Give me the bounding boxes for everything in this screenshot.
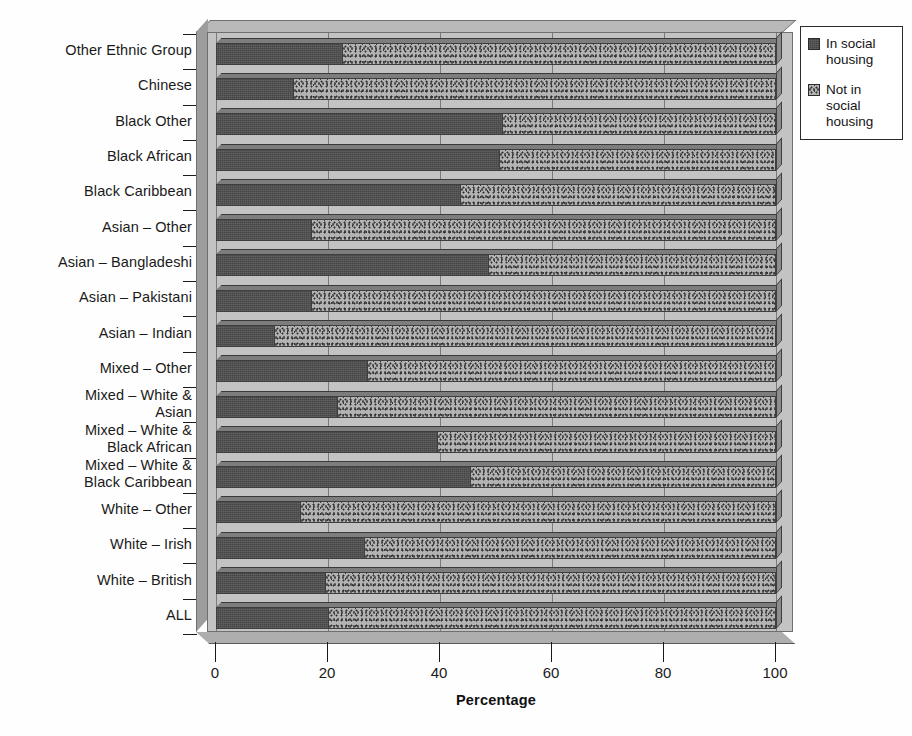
y-axis-label-line: Asian – Bangladeshi bbox=[0, 254, 192, 271]
bar-segment-in-social-housing bbox=[216, 325, 274, 347]
bar-segment-not-in-social-housing bbox=[470, 466, 776, 488]
y-axis-tick bbox=[183, 210, 197, 211]
y-axis-tick bbox=[183, 634, 197, 635]
legend-label: In socialhousing bbox=[826, 36, 876, 68]
legend-swatch-icon bbox=[808, 38, 820, 50]
bar-end-cap bbox=[776, 278, 782, 312]
y-axis-label-line: Asian – Other bbox=[0, 219, 192, 236]
y-axis-label-11: Mixed – White &Black African bbox=[0, 422, 192, 456]
bar-segment-not-in-social-housing bbox=[499, 149, 776, 171]
bar-segment-not-in-social-housing bbox=[274, 325, 776, 347]
y-axis-label-2: Black Other bbox=[0, 113, 192, 130]
y-axis-tick bbox=[183, 105, 197, 106]
bar-segment-not-in-social-housing bbox=[325, 572, 776, 594]
bar-end-cap bbox=[776, 102, 782, 136]
y-axis-label-13: White – Other bbox=[0, 501, 192, 518]
bar-end-cap bbox=[776, 31, 782, 65]
y-axis-tick bbox=[183, 458, 197, 459]
y-axis-label-line: ALL bbox=[0, 607, 192, 624]
x-axis-tick-label-40: 40 bbox=[409, 664, 469, 681]
bar-segment-not-in-social-housing bbox=[367, 360, 776, 382]
bar-segment-in-social-housing bbox=[216, 466, 470, 488]
x-axis-tick-label-100: 100 bbox=[745, 664, 805, 681]
y-axis-tick bbox=[183, 352, 197, 353]
legend-label: Not insocialhousing bbox=[826, 82, 873, 130]
bar-segment-in-social-housing bbox=[216, 607, 328, 629]
y-axis-label-line: Other Ethnic Group bbox=[0, 42, 192, 59]
y-axis-label-line: White – Irish bbox=[0, 536, 192, 553]
bar-end-cap bbox=[776, 243, 782, 277]
y-axis-tick bbox=[183, 316, 197, 317]
y-axis-label-10: Mixed – White &Asian bbox=[0, 387, 192, 421]
y-axis-label-line: Mixed – Other bbox=[0, 360, 192, 377]
y-axis-tick bbox=[183, 175, 197, 176]
bar-segment-not-in-social-housing bbox=[311, 290, 776, 312]
bar-segment-not-in-social-housing bbox=[328, 607, 776, 629]
y-axis-tick bbox=[183, 387, 197, 388]
bar-segment-in-social-housing bbox=[216, 360, 367, 382]
y-axis-label-16: ALL bbox=[0, 607, 192, 624]
y-axis-label-0: Other Ethnic Group bbox=[0, 42, 192, 59]
y-axis-label-line: Mixed – White & bbox=[0, 422, 192, 439]
legend-item-0: In socialhousing bbox=[808, 36, 896, 68]
bar-end-cap bbox=[776, 384, 782, 418]
y-axis-tick bbox=[183, 563, 197, 564]
legend: In socialhousingNot insocialhousing bbox=[800, 26, 903, 140]
bar-segment-not-in-social-housing bbox=[364, 537, 776, 559]
y-axis-tick bbox=[183, 246, 197, 247]
y-axis-label-15: White – British bbox=[0, 572, 192, 589]
y-axis-label-line: Black African bbox=[0, 148, 192, 165]
y-axis-label-3: Black African bbox=[0, 148, 192, 165]
y-axis-label-line: Asian – Indian bbox=[0, 325, 192, 342]
x-axis-tick-label-20: 20 bbox=[297, 664, 357, 681]
plot-wall bbox=[207, 32, 793, 632]
bar-segment-in-social-housing bbox=[216, 431, 437, 453]
y-axis-label-8: Asian – Indian bbox=[0, 325, 192, 342]
legend-label-line: housing bbox=[826, 114, 873, 130]
bar-segment-not-in-social-housing bbox=[437, 431, 776, 453]
bar-segment-not-in-social-housing bbox=[460, 184, 776, 206]
y-axis-label-line: Black Caribbean bbox=[0, 183, 192, 200]
y-axis-label-line: Black African bbox=[0, 439, 192, 456]
bar-segment-in-social-housing bbox=[216, 149, 499, 171]
bar-end-cap bbox=[776, 137, 782, 171]
legend-label-line: housing bbox=[826, 52, 876, 68]
y-axis-tick bbox=[183, 422, 197, 423]
bar-segment-not-in-social-housing bbox=[488, 254, 776, 276]
plot-area bbox=[196, 20, 796, 642]
bar-segment-not-in-social-housing bbox=[502, 113, 776, 135]
legend-item-1: Not insocialhousing bbox=[808, 82, 896, 130]
x-axis-title: Percentage bbox=[196, 692, 796, 708]
bar-end-cap bbox=[776, 490, 782, 524]
x-axis-tick-100 bbox=[775, 642, 776, 662]
x-axis-tick-label-80: 80 bbox=[633, 664, 693, 681]
bar-end-cap bbox=[776, 455, 782, 489]
legend-label-line: social bbox=[826, 98, 873, 114]
y-axis-label-12: Mixed – White &Black Caribbean bbox=[0, 457, 192, 491]
bar-segment-in-social-housing bbox=[216, 290, 311, 312]
bar-segment-in-social-housing bbox=[216, 43, 342, 65]
x-axis-tick-label-0: 0 bbox=[185, 664, 245, 681]
legend-label-line: In social bbox=[826, 36, 876, 52]
y-axis-tick bbox=[183, 599, 197, 600]
chart-root: Other Ethnic GroupChineseBlack OtherBlac… bbox=[0, 0, 912, 736]
y-axis-label-6: Asian – Bangladeshi bbox=[0, 254, 192, 271]
y-axis-label-line: White – British bbox=[0, 572, 192, 589]
y-axis-label-9: Mixed – Other bbox=[0, 360, 192, 377]
bar-segment-in-social-housing bbox=[216, 572, 325, 594]
bar-end-cap bbox=[776, 349, 782, 383]
y-axis-label-line: Black Caribbean bbox=[0, 474, 192, 491]
y-axis-tick bbox=[183, 69, 197, 70]
y-axis-tick bbox=[183, 34, 197, 35]
legend-swatch-icon bbox=[808, 84, 820, 96]
y-axis-label-line: Chinese bbox=[0, 77, 192, 94]
bar-end-cap bbox=[776, 207, 782, 241]
bar-end-cap bbox=[776, 172, 782, 206]
y-axis-label-line: Mixed – White & bbox=[0, 457, 192, 474]
x-axis-tick-label-60: 60 bbox=[521, 664, 581, 681]
bar-segment-in-social-housing bbox=[216, 254, 488, 276]
bar-end-cap bbox=[776, 525, 782, 559]
bar-segment-not-in-social-housing bbox=[342, 43, 776, 65]
bar-segment-not-in-social-housing bbox=[311, 219, 776, 241]
bar-segment-not-in-social-housing bbox=[300, 501, 776, 523]
